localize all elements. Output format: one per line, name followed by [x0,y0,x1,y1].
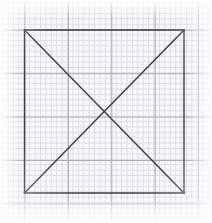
graph-paper-canvas [0,0,212,223]
square-with-diagonals-figure [0,0,212,223]
